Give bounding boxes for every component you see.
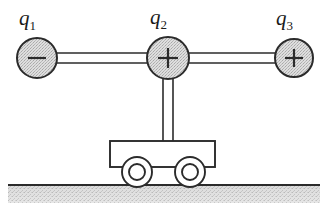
rod-q2-cart bbox=[163, 74, 173, 142]
charge-label-q2: q2 bbox=[150, 7, 167, 31]
charge-q3[interactable] bbox=[275, 39, 313, 77]
wheel-left bbox=[122, 157, 152, 187]
charge-q1[interactable] bbox=[17, 38, 57, 78]
rod-q1-q2 bbox=[52, 53, 155, 63]
charge-q2[interactable] bbox=[147, 37, 189, 79]
rod-q2-q3 bbox=[182, 53, 281, 63]
charge-label-q3: q3 bbox=[276, 8, 293, 32]
charge-label-q3-subscript: 3 bbox=[287, 18, 294, 33]
wheel-right bbox=[175, 157, 205, 187]
ground bbox=[8, 185, 320, 203]
ground-texture bbox=[8, 186, 320, 203]
charge-label-q1: q1 bbox=[19, 8, 36, 32]
charge-label-q1-symbol: q bbox=[19, 6, 30, 30]
charge-label-q3-symbol: q bbox=[276, 6, 287, 30]
charge-label-q1-subscript: 1 bbox=[30, 18, 37, 33]
charge-label-q2-symbol: q bbox=[150, 5, 161, 29]
physics-diagram-canvas: q1 q2 q3 bbox=[0, 0, 327, 209]
charge-label-q2-subscript: 2 bbox=[161, 17, 168, 32]
